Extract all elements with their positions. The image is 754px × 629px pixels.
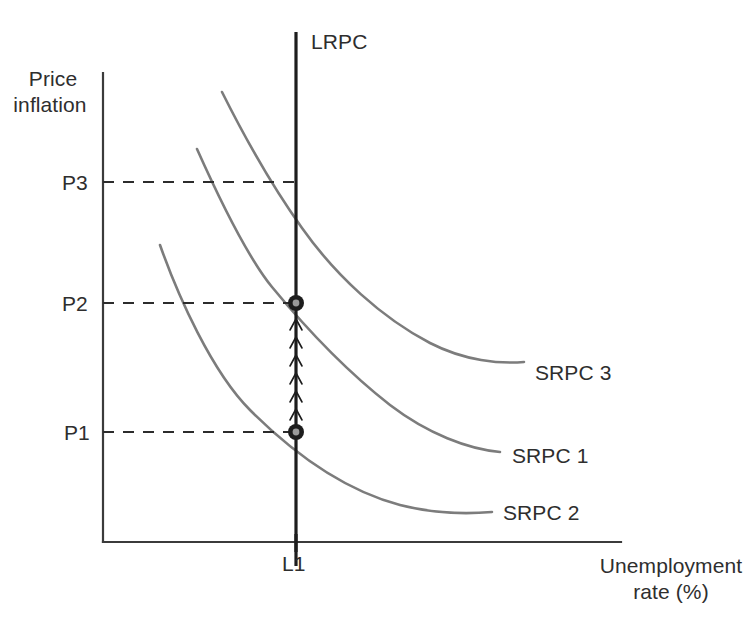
srpc-1-label: SRPC 1 — [512, 443, 588, 469]
phillips-curve-figure: LRPC Price inflation P3 P2 P1 L1 Unemplo… — [0, 0, 754, 629]
srpc-3-curve — [222, 92, 524, 363]
diagram-canvas — [0, 0, 754, 629]
lrpc-label: LRPC — [311, 29, 367, 55]
x-axis-title-line2: rate (%) — [591, 579, 751, 605]
srpc-1-curve — [197, 149, 500, 452]
point-marker-p1 — [288, 424, 304, 440]
y-axis-title-line1: Price — [10, 66, 96, 92]
y-tick-label-p1: P1 — [64, 420, 90, 446]
srpc-2-curve — [160, 245, 492, 513]
srpc-2-label: SRPC 2 — [503, 500, 579, 526]
x-tick-label-l1: L1 — [282, 551, 306, 577]
y-tick-label-p2: P2 — [62, 291, 88, 317]
point-marker-p2 — [288, 295, 304, 311]
y-tick-label-p3: P3 — [62, 170, 88, 196]
srpc-3-label: SRPC 3 — [535, 360, 611, 386]
arrow-stack-p1-to-p2 — [290, 319, 302, 428]
y-axis-title-line2: inflation — [2, 92, 98, 118]
x-axis-title-line1: Unemployment — [591, 553, 751, 579]
